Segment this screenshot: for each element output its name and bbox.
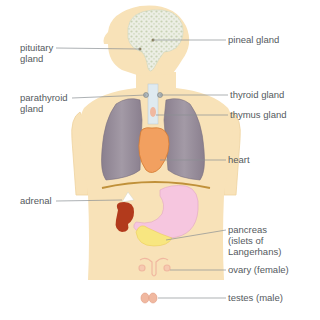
label-testes: testes (male) xyxy=(228,292,283,303)
label-ovary: ovary (female) xyxy=(228,264,289,275)
trachea xyxy=(148,84,158,124)
label-thyroid: thyroid gland xyxy=(230,89,284,100)
label-parathyroid: parathyroid gland xyxy=(20,92,68,114)
thymus-gland xyxy=(150,107,156,117)
testes-organ xyxy=(141,293,157,303)
label-thymus: thymus gland xyxy=(230,109,287,120)
label-pancreas: pancreas (islets of Langerhans) xyxy=(228,224,281,257)
label-pineal: pineal gland xyxy=(228,34,279,45)
label-adrenal: adrenal xyxy=(20,195,52,206)
label-pituitary: pituitary gland xyxy=(20,42,53,64)
label-heart: heart xyxy=(228,154,250,165)
